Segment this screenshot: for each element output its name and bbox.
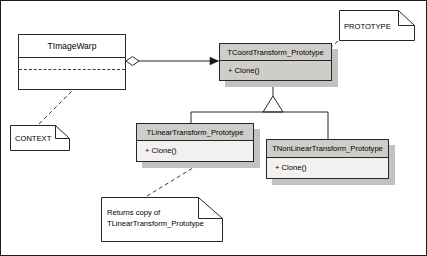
note-anchor-context: [39, 90, 73, 124]
class-operation-tlineartransform-clone: + Clone(): [137, 141, 253, 161]
class-box-tcoordtransform-prototype[interactable]: TCoordTransform_Prototype + Clone(): [219, 43, 332, 81]
class-compartment-timagewarp: [19, 58, 125, 89]
hollow-triangle-icon: [263, 96, 283, 112]
class-operation-tnonlineartransform-clone: + Clone(): [267, 158, 388, 178]
compartment-divider-dashed: [19, 69, 125, 70]
note-text-returns-line1: Returns copy of: [107, 208, 160, 218]
class-name-tnonlineartransform-prototype: TNonLinearTransform_Prototype: [267, 140, 388, 158]
note-text-prototype: PROTOTYPE: [344, 22, 391, 32]
note-context[interactable]: CONTEXT: [10, 125, 70, 151]
class-name-tlineartransform-prototype: TLinearTransform_Prototype: [137, 124, 253, 141]
class-name-tcoordtransform-prototype: TCoordTransform_Prototype: [220, 44, 331, 61]
uml-diagram-canvas: TImageWarp TCoordTransform_Prototype + C…: [0, 0, 427, 256]
class-box-tlineartransform-prototype[interactable]: TLinearTransform_Prototype + Clone(): [136, 123, 254, 162]
filled-arrow-icon: [210, 57, 219, 65]
note-text-returns-line2: TLinearTransform_Prototype: [107, 219, 204, 229]
aggregation-relationship: [126, 57, 219, 66]
note-prototype[interactable]: PROTOTYPE: [339, 10, 415, 41]
note-returns-copy[interactable]: Returns copy of TLinearTransform_Prototy…: [101, 197, 223, 242]
class-box-tnonlineartransform-prototype[interactable]: TNonLinearTransform_Prototype + Clone(): [266, 139, 389, 179]
note-text-context: CONTEXT: [15, 134, 51, 144]
class-name-timagewarp: TImageWarp: [19, 35, 125, 58]
hollow-diamond-icon: [126, 57, 139, 66]
class-box-timagewarp[interactable]: TImageWarp: [18, 34, 126, 90]
class-operation-tcoordtransform-clone: + Clone(): [220, 61, 331, 80]
